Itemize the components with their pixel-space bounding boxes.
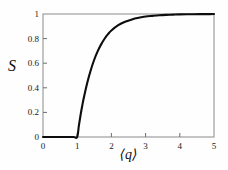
y-tick-label: 0.8 (8, 34, 39, 43)
y-tick-label: 0 (8, 133, 39, 142)
y-tick-label: 0.4 (8, 83, 39, 92)
y-tick-label: 1 (8, 10, 39, 19)
figure-container: 00.20.40.60.81 012345 S ⟨q⟩ (0, 0, 228, 170)
plot-frame (43, 14, 214, 137)
y-tick-label: 0.2 (8, 108, 39, 117)
data-series-curve (43, 14, 214, 138)
x-axis-title: ⟨q⟩ (43, 148, 214, 162)
tick-marks-group (43, 39, 180, 137)
y-axis-title: S (2, 58, 22, 74)
